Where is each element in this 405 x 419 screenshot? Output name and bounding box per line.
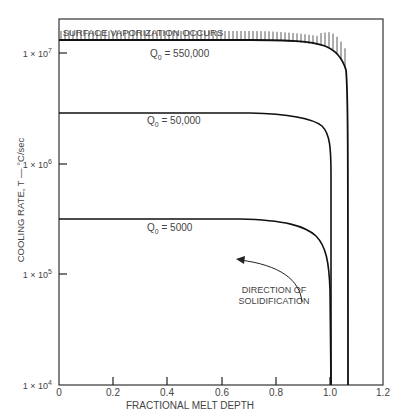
y-axis-label: COOLING RATE, T — °C/sec	[15, 137, 26, 262]
y-tick-label: 1 × 106	[23, 158, 52, 170]
x-tick-label: 0.6	[215, 387, 229, 398]
x-tick-label: 1.0	[323, 387, 337, 398]
arrowhead-icon	[236, 256, 245, 264]
series-label-5000: Q0 = 5000	[147, 222, 193, 235]
x-tick-label: 0.8	[269, 387, 283, 398]
series-label-550000: Q0 = 550,000	[150, 48, 210, 61]
x-tick-label: 0	[56, 387, 62, 398]
curve-q0-550000	[59, 40, 348, 385]
series-label-50000: Q0 = 50,000	[147, 115, 201, 128]
chart-canvas: 0 0.2 0.4 0.6 0.8 1.0 1.2 FRACTIONAL MEL…	[0, 0, 405, 419]
y-axis-ticks	[59, 53, 67, 274]
x-tick-label: 1.2	[376, 387, 390, 398]
y-tick-label: 1 × 107	[23, 47, 52, 59]
x-tick-label: 0.4	[160, 387, 174, 398]
annotation-direction-line2: SOLIDIFICATION	[239, 296, 310, 306]
annotation-surface-vaporization: SURFACE VAPORIZATION OCCURS	[63, 27, 224, 38]
curve-q0-50000	[59, 113, 331, 385]
x-axis-tick-labels: 0 0.2 0.4 0.6 0.8 1.0 1.2	[56, 387, 390, 398]
y-tick-label: 1 × 105	[23, 268, 52, 280]
plot-frame	[59, 19, 383, 385]
y-tick-label: 1 × 104	[23, 379, 52, 391]
x-tick-label: 0.2	[106, 387, 120, 398]
y-axis-tick-labels: 1 × 107 1 × 106 1 × 105 1 × 104	[23, 47, 52, 391]
x-axis-label: FRACTIONAL MELT DEPTH	[126, 400, 254, 411]
x-axis-ticks	[113, 377, 330, 385]
